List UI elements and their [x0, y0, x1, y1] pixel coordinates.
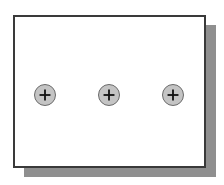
plus-screw-icon	[98, 84, 120, 106]
plus-screw-icon	[162, 84, 184, 106]
plus-screw-icon	[34, 84, 56, 106]
